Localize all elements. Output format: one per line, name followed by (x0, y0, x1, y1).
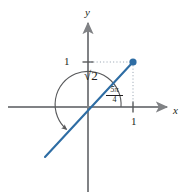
radius-length-label: √2 (84, 69, 98, 82)
diagram-canvas (0, 0, 190, 196)
y-axis-label: y (85, 7, 90, 18)
terminal-point-marker (129, 58, 136, 65)
angle-numerator: 5π (106, 86, 123, 94)
angle-measure-label: 5π 4 (106, 86, 123, 105)
y-tick-label-one: 1 (64, 56, 70, 67)
angle-denominator: 4 (106, 96, 123, 104)
angle-diagram-figure: y x 1 1 √2 5π 4 (0, 0, 190, 196)
x-tick-label-one: 1 (131, 116, 137, 127)
x-axis-label: x (173, 105, 178, 116)
